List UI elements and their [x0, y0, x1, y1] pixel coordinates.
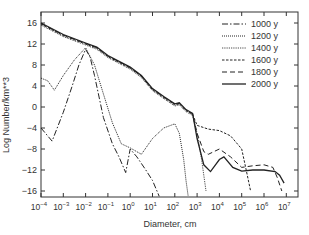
legend: 1000 y1200 y1400 y1600 y1800 y2000 y	[222, 19, 279, 89]
x-tick-label: 107	[278, 201, 291, 212]
x-axis-ticks: 10−410−310−210−1100101102103104105106107	[31, 12, 292, 212]
series-line-1400-y	[41, 25, 206, 191]
series-lines	[41, 23, 284, 196]
x-tick-label: 10−1	[98, 201, 115, 212]
legend-label: 1000 y	[251, 19, 279, 29]
series-line-1000-y	[41, 49, 159, 196]
x-tick-label: 100	[122, 201, 135, 212]
y-tick-label: 12	[27, 39, 37, 49]
x-tick-label: 101	[144, 201, 157, 212]
y-tick-label: −4	[27, 123, 37, 133]
x-tick-label: 104	[211, 201, 224, 212]
legend-label: 1600 y	[251, 55, 279, 65]
y-tick-label: 8	[32, 60, 37, 70]
x-tick-label: 10−4	[31, 201, 48, 212]
series-line-1200-y	[41, 48, 188, 197]
legend-label: 2000 y	[251, 79, 279, 89]
x-tick-label: 10−3	[53, 201, 70, 212]
y-tick-label: −8	[27, 144, 37, 154]
chart: 1612840−4−8−12−16 10−410−310−210−1100101…	[0, 0, 309, 235]
series-line-2000-y	[41, 23, 284, 183]
x-tick-label: 103	[189, 201, 202, 212]
x-tick-label: 106	[256, 201, 269, 212]
legend-label: 1200 y	[251, 31, 279, 41]
y-tick-label: 0	[32, 102, 37, 112]
legend-label: 1800 y	[251, 67, 279, 77]
y-tick-label: 4	[32, 81, 37, 91]
y-tick-label: 16	[27, 18, 37, 28]
series-line-1600-y	[41, 24, 251, 191]
x-tick-label: 102	[166, 201, 179, 212]
x-axis-label: Diameter, cm	[143, 219, 196, 229]
x-tick-label: 10−2	[75, 201, 92, 212]
y-tick-label: −16	[22, 186, 37, 196]
y-axis-label: Log Number/km**3	[1, 77, 11, 153]
legend-label: 1400 y	[251, 43, 279, 53]
x-tick-label: 105	[233, 201, 246, 212]
y-tick-label: −12	[22, 165, 37, 175]
